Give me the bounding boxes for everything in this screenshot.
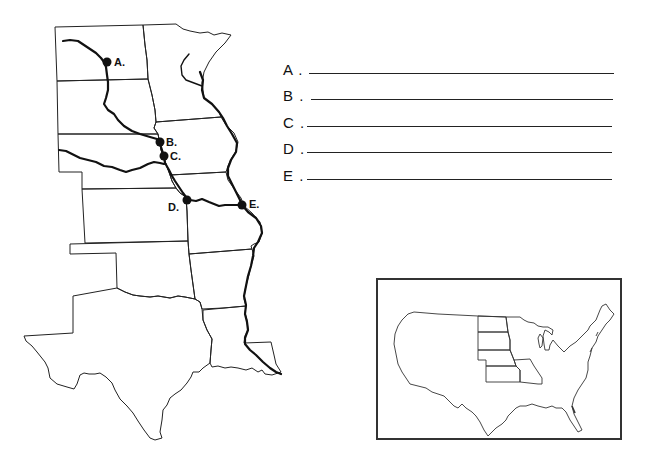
- point-label-d: D.: [168, 201, 179, 213]
- answer-blank-e[interactable]: [307, 179, 612, 180]
- missouri-river: [63, 40, 242, 206]
- lake-michigan: [538, 334, 543, 348]
- inset-north-dakota: [478, 316, 508, 332]
- state-north-dakota: [55, 25, 148, 81]
- inset-missouri: [514, 359, 542, 384]
- location-dot-icon[interactable]: [238, 201, 247, 210]
- region-map-svg: A. B. C. D. E.: [0, 0, 300, 460]
- point-label-e: E.: [249, 198, 259, 210]
- answer-letter: D .: [283, 141, 307, 156]
- inset-south-dakota: [478, 332, 510, 350]
- answer-row-d: D .: [283, 130, 623, 157]
- answer-blank-a[interactable]: [309, 73, 614, 74]
- point-label-c: C.: [170, 150, 181, 162]
- answer-row-e: E .: [283, 156, 623, 183]
- platte-river: [59, 150, 164, 172]
- answer-letter: B .: [283, 88, 307, 103]
- point-label-b: B.: [166, 136, 177, 148]
- answer-row-a: A .: [283, 50, 623, 77]
- location-dot-icon[interactable]: [103, 58, 112, 67]
- answer-row-b: B .: [283, 77, 623, 104]
- inset-kansas: [486, 366, 520, 382]
- inset-nebraska: [478, 350, 516, 366]
- state-kansas: [82, 188, 188, 243]
- location-dot-icon[interactable]: [156, 138, 165, 147]
- answer-letter: E .: [283, 168, 307, 183]
- answer-row-c: C .: [283, 103, 623, 130]
- inset-bay: [590, 332, 598, 352]
- answer-letter: A .: [283, 62, 307, 77]
- state-minnesota: [143, 24, 231, 122]
- us-outline: [394, 304, 614, 436]
- answer-blank-c[interactable]: [307, 126, 612, 127]
- inset-minnesota-border: [506, 317, 514, 360]
- answer-list: A . B . C . D . E .: [283, 50, 623, 183]
- location-dot-icon[interactable]: [160, 152, 169, 161]
- point-label-a: A.: [114, 56, 125, 68]
- us-locator-inset: [376, 278, 622, 440]
- state-louisiana: [203, 306, 281, 375]
- state-oklahoma: [70, 241, 195, 299]
- location-dot-icon[interactable]: [183, 196, 192, 205]
- us-locator-map: [378, 280, 620, 438]
- state-texas: [24, 288, 212, 440]
- answer-blank-d[interactable]: [307, 152, 612, 153]
- region-map: A. B. C. D. E.: [0, 0, 300, 460]
- minnesota-river: [181, 54, 202, 86]
- answer-letter: C .: [283, 115, 307, 130]
- answer-blank-b[interactable]: [311, 99, 613, 100]
